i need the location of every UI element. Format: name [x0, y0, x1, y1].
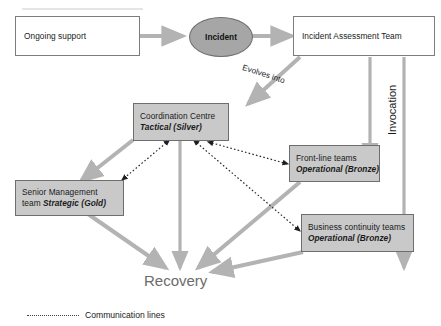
node-business-continuity-teams[interactable]: Business continuity teams Operational (B… [301, 214, 414, 252]
node-front-line-teams-line1: Front-line teams [296, 153, 379, 164]
node-ongoing-support[interactable]: Ongoing support [15, 16, 140, 56]
node-recovery-label: Recovery [144, 272, 207, 289]
node-incident-assessment-team[interactable]: Incident Assessment Team [293, 16, 435, 56]
edge-label-invocation-text: Invocation [386, 85, 398, 135]
node-senior-management-team-line2: Strategic (Gold) [43, 198, 106, 208]
node-coordination-centre[interactable]: Coordination Centre Tactical (Silver) [133, 103, 229, 141]
node-incident-assessment-team-label: Incident Assessment Team [302, 31, 434, 42]
legend-dotted-line-swatch [27, 315, 79, 316]
node-senior-management-team[interactable]: Senior Management team Strategic (Gold) [15, 180, 124, 216]
node-coordination-centre-line2: Tactical (Silver) [140, 122, 228, 133]
comm-line-coordination-senior [122, 143, 166, 180]
comm-line-coordination-business [197, 143, 300, 231]
node-business-continuity-teams-line1: Business continuity teams [308, 222, 413, 233]
arrow-business-to-recovery [212, 252, 303, 272]
node-incident[interactable]: Incident [189, 17, 253, 57]
node-senior-management-team-line1: Senior Management [22, 187, 123, 198]
node-senior-management-team-line2-wrap: team Strategic (Gold) [22, 198, 123, 209]
node-recovery: Recovery [144, 272, 207, 289]
arrow-senior-to-recovery [88, 214, 166, 268]
node-front-line-teams-line2: Operational (Bronze) [296, 164, 379, 175]
diagram-canvas: Ongoing support Incident Incident Assess… [0, 0, 441, 326]
legend: Communication lines [27, 310, 165, 320]
node-senior-management-team-line2a: team [22, 198, 43, 208]
legend-communication-lines-label: Communication lines [85, 310, 165, 320]
node-incident-label: Incident [205, 32, 237, 42]
edge-label-invocation: Invocation [386, 85, 398, 135]
comm-line-coordination-frontline [212, 143, 288, 164]
node-coordination-centre-line1: Coordination Centre [140, 111, 228, 122]
node-ongoing-support-label: Ongoing support [24, 31, 139, 42]
arrow-coordination-to-senior [81, 140, 133, 181]
node-business-continuity-teams-line2: Operational (Bronze) [308, 233, 413, 244]
node-front-line-teams[interactable]: Front-line teams Operational (Bronze) [289, 145, 380, 182]
